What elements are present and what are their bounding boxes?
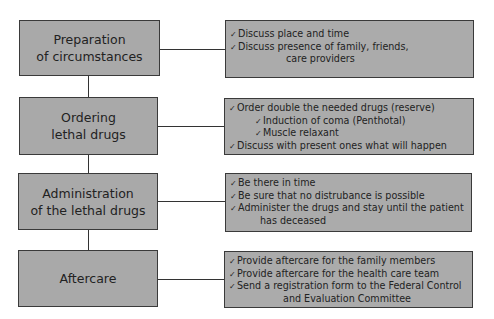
stage-label-line: lethal drugs (51, 126, 126, 143)
check-icon: ✓ (255, 116, 263, 128)
check-icon: ✓ (229, 141, 237, 153)
stage-box-ordering: Ordering lethal drugs (19, 97, 158, 155)
checklist-subitem: ✓Induction of coma (Penthotal) (229, 115, 473, 128)
details-box-preparation: ✓Discuss place and time ✓Discuss presenc… (225, 20, 474, 78)
details-box-administration: ✓Be there in time ✓Be sure that no distr… (225, 173, 472, 232)
check-icon: ✓ (230, 42, 238, 54)
check-icon: ✓ (230, 203, 238, 215)
checklist-item: ✓Discuss with present ones what will hap… (229, 140, 473, 153)
check-icon: ✓ (255, 128, 263, 140)
check-icon: ✓ (230, 178, 238, 190)
stage-label-line: Preparation (36, 31, 142, 48)
connector-stage3-stage4 (88, 230, 89, 250)
stage-label-line: Administration (30, 185, 145, 202)
stage-box-administration: Administration of the lethal drugs (18, 173, 158, 230)
stage-label-line: of circumstances (36, 48, 142, 65)
details-box-ordering: ✓Order double the needed drugs (reserve)… (224, 98, 474, 155)
checklist-item: ✓Provide aftercare for the family member… (229, 255, 472, 268)
check-icon: ✓ (229, 281, 237, 293)
check-icon: ✓ (229, 103, 237, 115)
checklist-item: ✓Be there in time (230, 177, 471, 190)
stage-box-aftercare: Aftercare (18, 250, 158, 307)
check-icon: ✓ (230, 191, 238, 203)
checklist-item: ✓Order double the needed drugs (reserve) (229, 102, 473, 115)
check-icon: ✓ (230, 29, 238, 41)
checklist-item: ✓Discuss presence of family, friends, (230, 41, 473, 54)
check-icon: ✓ (229, 269, 237, 281)
connector-stage3-details (158, 201, 225, 202)
details-box-aftercare: ✓Provide aftercare for the family member… (224, 251, 473, 308)
stage-label-line: Ordering (51, 109, 126, 126)
checklist-item-continuation: care providers (230, 53, 473, 65)
stage-label-line: of the lethal drugs (30, 202, 145, 219)
connector-stage1-details (160, 49, 225, 50)
diagram-title-fragment: ' (219, 0, 222, 8)
checklist-item: ✓Send a registration form to the Federal… (229, 280, 472, 293)
checklist-item: ✓Discuss place and time (230, 28, 473, 41)
checklist-item-continuation: has deceased (230, 215, 471, 227)
checklist-item: ✓Administer the drugs and stay until the… (230, 202, 471, 215)
connector-stage4-details (158, 279, 224, 280)
connector-stage2-details (158, 126, 224, 127)
stage-label-line: Aftercare (60, 270, 117, 287)
checklist-item-continuation: and Evaluation Committee (229, 293, 472, 305)
connector-stage2-stage3 (88, 155, 89, 173)
connector-stage1-stage2 (88, 76, 89, 97)
check-icon: ✓ (229, 256, 237, 268)
checklist-subitem: ✓Muscle relaxant (229, 127, 473, 140)
checklist-item: ✓Provide aftercare for the health care t… (229, 268, 472, 281)
stage-box-preparation: Preparation of circumstances (19, 20, 160, 76)
checklist-item: ✓Be sure that no distrubance is possible (230, 190, 471, 203)
